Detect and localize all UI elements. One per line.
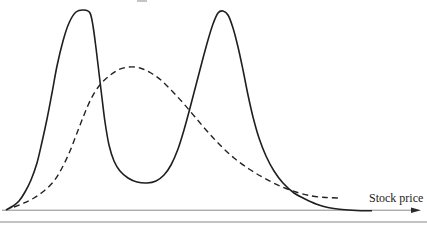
bottom-rule (0, 221, 427, 223)
dashed-unimodal-curve (14, 67, 338, 207)
x-axis-arrowhead (411, 207, 421, 213)
distribution-figure: Stock price (0, 0, 427, 227)
x-axis-label: Stock price (369, 192, 423, 204)
solid-bimodal-curve (6, 10, 372, 211)
cropped-text-artifact (137, 0, 147, 2)
distribution-chart (0, 0, 427, 227)
